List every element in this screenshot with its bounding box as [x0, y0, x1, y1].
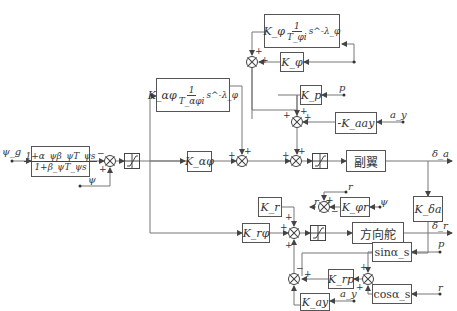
delta-a-output-label: δ_a: [432, 148, 449, 159]
ay-input-top-label: a_y: [390, 109, 407, 120]
k-r-block: K_r: [258, 197, 282, 217]
sign-plus: +: [356, 282, 364, 292]
k-ay-block: K_ay: [300, 293, 330, 311]
saturation-block-2: [312, 153, 328, 169]
k-p-block: K_p: [300, 85, 322, 105]
k-alpha-integral-block: K_αφ 1T_αφi s^-λ_φ: [156, 78, 230, 112]
rudder-block: 方向舵: [352, 222, 404, 244]
sum-junction-phi: [246, 56, 258, 68]
k-alpha-integral-den: T_αφi: [179, 96, 205, 106]
p-input-bottom-label: p: [438, 238, 444, 249]
k-phi-r-block: K_φr: [340, 197, 370, 217]
r-input-mid-label: r: [348, 181, 353, 192]
sign-plus: +: [99, 164, 107, 174]
psi-input-mid-label: ψ: [380, 196, 388, 207]
k-phi-integral-exp: s^-λ_φ: [309, 26, 341, 36]
sign-plus: +: [360, 262, 368, 272]
k-rp-block: K_rp: [328, 269, 354, 289]
lead-filter-block: 1+α_ψβ_ψT_ψs 1+β_ψT_ψs: [31, 146, 90, 177]
saturation-block-3: [310, 225, 326, 241]
k-phi-integral-gain: K_φ: [264, 25, 285, 38]
sign-minus: −: [97, 148, 105, 158]
sum-junction-aileron: [290, 155, 302, 167]
k-phi-integral-den: T_φi: [287, 32, 307, 42]
sign-plus: +: [304, 269, 312, 279]
aileron-block: 副翼: [346, 150, 386, 172]
k-aay-block: -K_aay: [335, 112, 377, 134]
sum-junction-roll-mid: [291, 116, 303, 128]
sign-minus: −: [331, 206, 339, 216]
sign-plus: +: [282, 150, 290, 160]
p-input-top-label: p: [339, 82, 345, 93]
k-delta-a-block: K_δa: [413, 196, 443, 222]
sign-plus: +: [326, 195, 334, 205]
saturation-block-1: [124, 153, 140, 169]
sin-alpha-block: sinα_s: [372, 242, 412, 262]
k-alpha-block: K_αφ: [187, 151, 212, 172]
k-phi-integral-num: 1: [292, 21, 302, 32]
sign-plus: +: [285, 212, 293, 222]
sign-plus: +: [304, 112, 312, 122]
sign-plus: +: [261, 55, 269, 65]
lead-filter-numerator: 1+α_ψβ_ψT_ψs: [24, 151, 98, 162]
sum-junction-rudder: [288, 227, 300, 239]
sign-plus: +: [298, 146, 306, 156]
k-alpha-integral-num: 1: [187, 85, 197, 96]
k-alpha-integral-exp: s^-λ_φ: [206, 90, 238, 100]
sign-plus: +: [285, 240, 293, 250]
sign-plus: +: [228, 150, 236, 160]
cos-alpha-block: cosα_s: [372, 284, 412, 304]
sign-plus: +: [280, 222, 288, 232]
sign-minus: −: [296, 263, 304, 273]
ay-input-bottom-label: a_y: [340, 288, 357, 299]
lead-filter-denominator: 1+β_ψT_ψs: [34, 162, 86, 172]
k-phi-integral-block: K_φ 1T_φi s^-λ_φ: [264, 14, 340, 48]
sum-junction-alpha: [236, 155, 248, 167]
k-alpha-integral-gain: K_αφ: [148, 89, 177, 102]
r-input-bottom-label: r: [438, 282, 443, 293]
sign-plus: +: [283, 110, 291, 120]
k-phi-block: K_φ: [280, 52, 304, 72]
sign-plus: +: [244, 146, 252, 156]
sum-junction-ay: [288, 273, 300, 285]
psi-cmd-input-label: ψ_g: [2, 146, 21, 157]
k-r-phi-block: K_rφ: [242, 223, 270, 243]
